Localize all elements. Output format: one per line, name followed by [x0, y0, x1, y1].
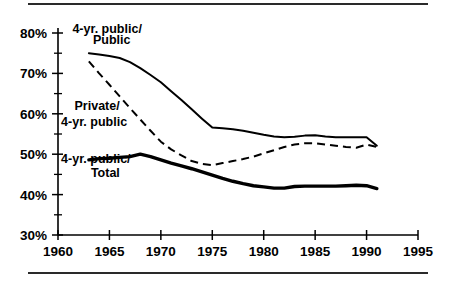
- x-tick-label: 1960: [43, 244, 73, 259]
- y-tick-label: 60%: [20, 107, 47, 122]
- x-tick-label: 1970: [146, 244, 176, 259]
- series-line: [89, 53, 377, 146]
- x-tick-label: 1990: [352, 244, 382, 259]
- x-tick-label: 1965: [94, 244, 125, 259]
- y-tick-label: 50%: [20, 147, 47, 162]
- data-series-group: [89, 53, 377, 188]
- series-annotation-label: 4-yr. public: [61, 115, 127, 129]
- series-annotation-label: Total: [91, 166, 120, 180]
- y-tick-label: 80%: [20, 26, 47, 41]
- line-chart-plot: 30%40%50%60%70%80% 196019651970197519801…: [0, 0, 456, 284]
- x-tick-label: 1975: [197, 244, 228, 259]
- series-line: [89, 154, 377, 188]
- x-tick-label: 1985: [300, 244, 331, 259]
- y-tick-label: 70%: [20, 66, 47, 81]
- x-tick-label: 1980: [249, 244, 279, 259]
- series-line: [89, 61, 377, 165]
- series-annotation-label: Private/: [75, 99, 121, 113]
- y-axis: 30%40%50%60%70%80%: [20, 26, 63, 243]
- x-axis: 19601965197019751980198519901995: [43, 230, 434, 259]
- y-tick-label: 30%: [20, 228, 47, 243]
- series-annotation-label: Public: [93, 33, 131, 47]
- chart-figure: 30%40%50%60%70%80% 196019651970197519801…: [0, 0, 456, 284]
- y-tick-label: 40%: [20, 188, 47, 203]
- series-annotations-group: 4-yr. public/PublicPrivate/4-yr. public4…: [61, 22, 142, 180]
- series-annotation-label: 4-yr. public/: [61, 152, 131, 166]
- x-tick-label: 1995: [403, 244, 434, 259]
